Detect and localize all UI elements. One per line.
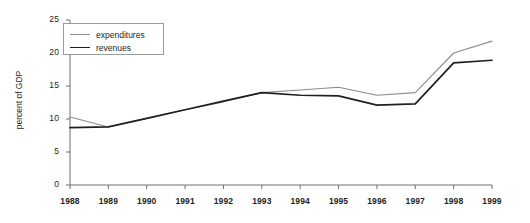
legend-entry-expenditures: expenditures bbox=[70, 28, 145, 41]
legend-swatch-revenues bbox=[70, 47, 90, 48]
x-tick-label: 1997 bbox=[395, 196, 435, 206]
legend-swatch-expenditures bbox=[70, 34, 90, 35]
x-axis-ticks bbox=[70, 185, 492, 189]
legend-label-revenues: revenues bbox=[96, 43, 131, 53]
x-tick-label: 1995 bbox=[319, 196, 359, 206]
x-tick-label: 1991 bbox=[165, 196, 205, 206]
x-tick-label: 1989 bbox=[88, 196, 128, 206]
line-chart: percent of GDP 0510152025 19881989199019… bbox=[0, 0, 530, 223]
legend-label-expenditures: expenditures bbox=[96, 30, 145, 40]
x-tick-label: 1993 bbox=[242, 196, 282, 206]
x-tick-label: 1988 bbox=[50, 196, 90, 206]
y-tick-label: 10 bbox=[37, 113, 59, 123]
y-axis-label: percent of GDP bbox=[14, 55, 24, 145]
legend-entry-revenues: revenues bbox=[70, 41, 131, 54]
legend: expenditures revenues bbox=[63, 23, 164, 55]
x-tick-label: 1996 bbox=[357, 196, 397, 206]
x-tick-label: 1994 bbox=[280, 196, 320, 206]
y-tick-label: 15 bbox=[37, 80, 59, 90]
y-tick-label: 25 bbox=[37, 14, 59, 24]
x-tick-label: 1990 bbox=[127, 196, 167, 206]
y-tick-label: 0 bbox=[37, 179, 59, 189]
x-tick-label: 1992 bbox=[203, 196, 243, 206]
x-tick-label: 1999 bbox=[472, 196, 512, 206]
x-tick-label: 1998 bbox=[434, 196, 474, 206]
series-line-revenues bbox=[70, 60, 492, 127]
y-tick-label: 5 bbox=[37, 146, 59, 156]
y-tick-label: 20 bbox=[37, 47, 59, 57]
